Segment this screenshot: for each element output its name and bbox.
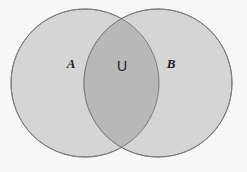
label-union-symbol: U — [117, 58, 127, 74]
label-set-b: B — [167, 56, 176, 72]
label-set-a: A — [67, 56, 76, 72]
venn-diagram-figure: Sets A and B with their union A U B — [0, 0, 247, 172]
venn-diagram-canvas — [0, 0, 247, 172]
